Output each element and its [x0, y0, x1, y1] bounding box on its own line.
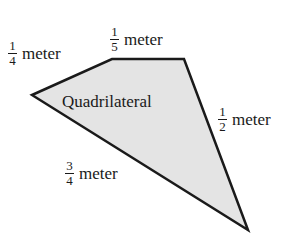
unit: meter [124, 30, 163, 50]
unit: meter [232, 110, 271, 130]
side-label-left-top: 1 4 meter [8, 40, 61, 67]
numerator: 1 [111, 26, 118, 38]
fraction: 1 2 [218, 106, 227, 133]
fraction: 1 5 [110, 26, 119, 53]
side-label-top: 1 5 meter [110, 26, 163, 53]
side-label-bottom-left: 3 4 meter [65, 160, 118, 187]
denominator: 4 [66, 175, 73, 187]
numerator: 3 [66, 160, 73, 172]
fraction: 3 4 [65, 160, 74, 187]
shape-name-label: Quadrilateral [62, 92, 152, 112]
numerator: 1 [219, 106, 226, 118]
fraction: 1 4 [8, 40, 17, 67]
denominator: 2 [219, 121, 226, 133]
denominator: 4 [9, 55, 16, 67]
denominator: 5 [111, 41, 118, 53]
numerator: 1 [9, 40, 16, 52]
unit: meter [22, 44, 61, 64]
quadrilateral-diagram: Quadrilateral 1 4 meter 1 5 meter 1 2 me… [0, 0, 301, 243]
side-label-right: 1 2 meter [218, 106, 271, 133]
unit: meter [79, 164, 118, 184]
